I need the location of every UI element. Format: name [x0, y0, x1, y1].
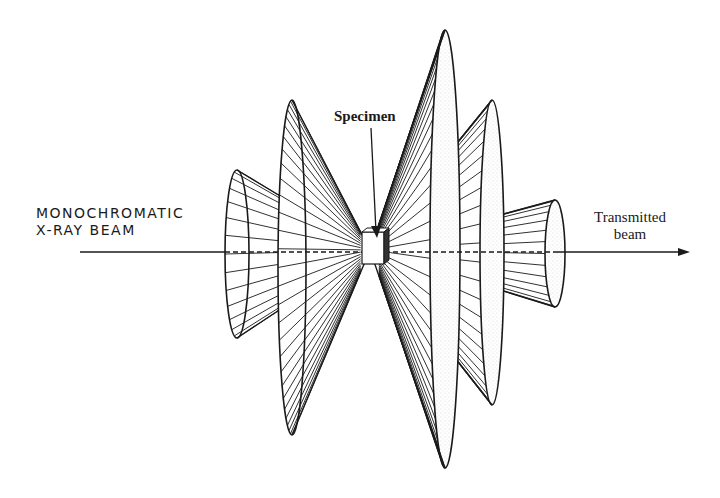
incident-beam-label: MONOCHROMATIC X-RAY BEAM — [36, 205, 184, 239]
arrowhead-icon — [678, 248, 690, 256]
specimen-label: Specimen — [334, 108, 396, 125]
specimen-block-front — [362, 232, 384, 264]
transmitted-beam-label: Transmitted beam — [590, 209, 670, 243]
incident-beam-label-line1: MONOCHROMATIC — [36, 205, 184, 222]
cone-backscatter-2 — [278, 100, 370, 435]
specimen-pointer-line — [371, 128, 376, 232]
cone-base-ellipse — [545, 200, 565, 307]
diffraction-cones-diagram — [0, 0, 720, 498]
cone-base-ellipse — [430, 30, 460, 468]
transmitted-beam-label-line2: beam — [590, 226, 670, 243]
specimen-block-side — [384, 228, 389, 264]
transmitted-beam-label-line1: Transmitted — [590, 209, 670, 226]
incident-beam-label-line2: X-RAY BEAM — [36, 222, 184, 239]
